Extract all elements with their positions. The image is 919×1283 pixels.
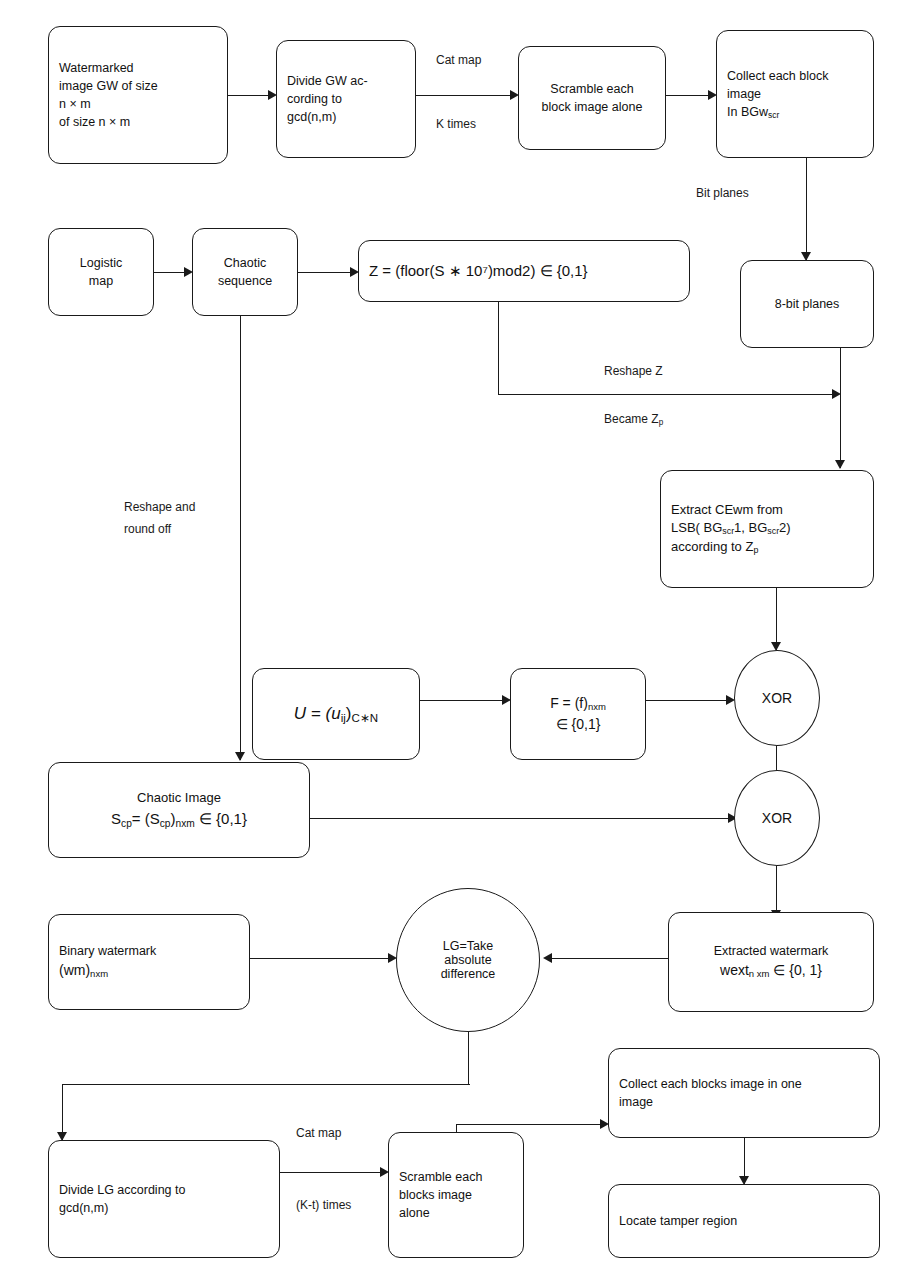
edge-chaotic-to-z bbox=[298, 272, 354, 273]
f-matrix-line2: ∈ {0,1} bbox=[521, 714, 635, 734]
node-collect-blocks: Collect each blocks image in one image bbox=[608, 1048, 880, 1138]
edge-u-to-f bbox=[420, 700, 506, 701]
extracted-wm-line2: wextn xm ∈ {0, 1} bbox=[679, 960, 863, 981]
edge-collect-to-8bit bbox=[806, 158, 807, 260]
scramble-block-line2: block image alone bbox=[529, 98, 655, 116]
edge-label-k-times: K times bbox=[436, 117, 476, 131]
scramble-blocks-line3: alone bbox=[399, 1204, 513, 1222]
edge-chaotic-image-to-xor-bottom bbox=[310, 818, 734, 819]
edge-chaotic-to-chaotic-image bbox=[240, 316, 241, 760]
node-divide-lg: Divide LG according to gcd(n,m) bbox=[48, 1140, 280, 1258]
node-collect-block: Collect each block image In BGwscr bbox=[716, 30, 874, 158]
extract-cewm-line3: according to Zp bbox=[671, 538, 863, 557]
lg-circle-line2: absolute bbox=[441, 953, 496, 967]
chaotic-sequence-line1: Chaotic bbox=[203, 254, 287, 272]
logistic-map-line1: Logistic bbox=[59, 254, 143, 272]
node-extracted-watermark: Extracted watermark wextn xm ∈ {0, 1} bbox=[668, 912, 874, 1012]
edge-lg-left bbox=[62, 1084, 470, 1085]
edge-label-k-t-times: (K-t) times bbox=[296, 1198, 351, 1212]
collect-block-line3: In BGwscr bbox=[727, 103, 863, 121]
scramble-blocks-line1: Scramble each bbox=[399, 1168, 513, 1186]
edge-reshape-z-horizontal bbox=[498, 394, 838, 395]
edge-label-cat-map-bottom: Cat map bbox=[296, 1126, 341, 1140]
edge-label-reshape-round-2: round off bbox=[124, 522, 171, 536]
node-8-bit-planes: 8-bit planes bbox=[740, 260, 874, 348]
lg-circle-line1: LG=Take bbox=[441, 939, 496, 953]
chaotic-sequence-line2: sequence bbox=[203, 272, 287, 290]
lg-circle-line3: difference bbox=[441, 967, 496, 981]
node-scramble-block: Scramble each block image alone bbox=[518, 46, 666, 150]
collect-block-line1: Collect each block bbox=[727, 67, 863, 85]
edge-label-bit-planes: Bit planes bbox=[696, 186, 749, 200]
node-xor-bottom: XOR bbox=[734, 770, 820, 866]
edge-f-to-xor-top bbox=[646, 700, 730, 701]
flowchart-canvas: Watermarked image GW of size n × m of si… bbox=[0, 0, 919, 1283]
edge-scramble-to-collect bbox=[666, 95, 712, 96]
edge-z-down bbox=[498, 302, 499, 394]
node-extract-cewm: Extract CEwm from LSB( BGscr1, BGscr2) a… bbox=[660, 470, 874, 588]
arrowhead-down-3 bbox=[235, 752, 245, 761]
edge-divide-to-scramble bbox=[416, 95, 514, 96]
u-matrix-text: U = (uij)C∗N bbox=[263, 702, 409, 727]
8-bit-planes-text: 8-bit planes bbox=[751, 295, 863, 313]
node-z-equation: Z = (floor(S ∗ 10⁷)mod2) ∈ {0,1} bbox=[358, 240, 690, 302]
scramble-block-line1: Scramble each bbox=[529, 80, 655, 98]
watermarked-image-line3: n × m bbox=[59, 95, 217, 113]
logistic-map-line2: map bbox=[59, 272, 143, 290]
node-chaotic-sequence: Chaotic sequence bbox=[192, 228, 298, 316]
divide-gw-line2: cording to bbox=[287, 90, 405, 108]
edge-divide-lg-to-scramble bbox=[280, 1172, 384, 1173]
extract-cewm-line1: Extract CEwm from bbox=[671, 501, 863, 520]
binary-watermark-line1: Binary watermark bbox=[59, 942, 239, 960]
divide-lg-line1: Divide LG according to bbox=[59, 1181, 269, 1199]
edge-label-cat-map-top: Cat map bbox=[436, 53, 481, 67]
edge-binary-to-lg bbox=[250, 958, 392, 959]
extracted-wm-line1: Extracted watermark bbox=[679, 942, 863, 960]
divide-gw-line1: Divide GW ac- bbox=[287, 72, 405, 90]
collect-block-line2: image bbox=[727, 85, 863, 103]
edge-scramble-to-collect-blocks bbox=[456, 1124, 606, 1125]
scramble-blocks-line2: blocks image bbox=[399, 1186, 513, 1204]
z-equation-text: Z = (floor(S ∗ 10⁷)mod2) ∈ {0,1} bbox=[369, 260, 679, 282]
collect-blocks-line1: Collect each blocks image in one bbox=[619, 1075, 869, 1093]
node-lg-circle: LG=Take absolute difference bbox=[396, 888, 540, 1032]
node-u-matrix: U = (uij)C∗N bbox=[252, 668, 420, 760]
watermarked-image-line1: Watermarked bbox=[59, 59, 217, 77]
node-binary-watermark: Binary watermark (wm)nxm bbox=[48, 914, 250, 1010]
xor-bottom-text: XOR bbox=[762, 810, 792, 826]
node-f-matrix: F = (f)nxm ∈ {0,1} bbox=[510, 668, 646, 760]
binary-watermark-line2: (wm)nxm bbox=[59, 960, 239, 981]
chaotic-image-line1: Chaotic Image bbox=[59, 789, 299, 808]
edge-label-reshape-z: Reshape Z bbox=[604, 364, 663, 378]
arrowhead-down-2 bbox=[835, 460, 845, 469]
edge-watermarked-to-divide bbox=[228, 95, 272, 96]
node-chaotic-image: Chaotic Image Scp= (Scp)nxm ∈ {0,1} bbox=[48, 762, 310, 858]
edge-label-reshape-round-1: Reshape and bbox=[124, 500, 195, 514]
divide-gw-line3: gcd(n,m) bbox=[287, 108, 405, 126]
collect-block-sub: scr bbox=[768, 110, 779, 120]
chaotic-image-line2: Scp= (Scp)nxm ∈ {0,1} bbox=[59, 808, 299, 831]
node-logistic-map: Logistic map bbox=[48, 228, 154, 316]
collect-blocks-line2: image bbox=[619, 1093, 869, 1111]
edge-extracted-to-lg bbox=[552, 958, 670, 959]
watermarked-image-line4: of size n × m bbox=[59, 113, 217, 131]
node-locate-tamper: Locate tamper region bbox=[608, 1184, 880, 1258]
edge-label-became-zp: Became Zp bbox=[604, 412, 663, 427]
edge-scramble-blocks-up bbox=[456, 1124, 457, 1132]
f-matrix-line1: F = (f)nxm bbox=[521, 693, 635, 714]
node-divide-gw: Divide GW ac- cording to gcd(n,m) bbox=[276, 40, 416, 158]
edge-extract-to-xor-top bbox=[776, 588, 777, 650]
arrowhead-left-1 bbox=[543, 953, 552, 963]
extract-cewm-line2: LSB( BGscr1, BGscr2) bbox=[671, 519, 863, 538]
locate-tamper-text: Locate tamper region bbox=[619, 1212, 869, 1230]
node-scramble-blocks: Scramble each blocks image alone bbox=[388, 1132, 524, 1258]
node-xor-top: XOR bbox=[734, 650, 820, 746]
xor-top-text: XOR bbox=[762, 690, 792, 706]
watermarked-image-line2: image GW of size bbox=[59, 77, 217, 95]
edge-logistic-to-chaotic bbox=[154, 272, 188, 273]
edge-lg-down bbox=[468, 1032, 469, 1084]
node-watermarked-image: Watermarked image GW of size n × m of si… bbox=[48, 26, 228, 164]
edge-8bit-to-extract bbox=[840, 348, 841, 468]
divide-lg-line2: gcd(n,m) bbox=[59, 1199, 269, 1217]
